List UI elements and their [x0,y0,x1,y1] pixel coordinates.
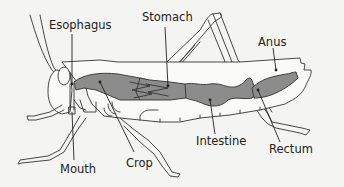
eye [58,67,70,85]
label-crop: Crop [126,156,153,170]
label-mouth: Mouth [60,162,96,176]
label-esophagus: Esophagus [49,18,112,32]
grasshopper-diagram: Esophagus Stomach Anus Mouth Crop Intest… [0,0,344,187]
label-intestine: Intestine [196,134,246,148]
label-stomach: Stomach [142,10,193,24]
label-rectum: Rectum [269,142,313,156]
label-anus: Anus [258,35,286,49]
